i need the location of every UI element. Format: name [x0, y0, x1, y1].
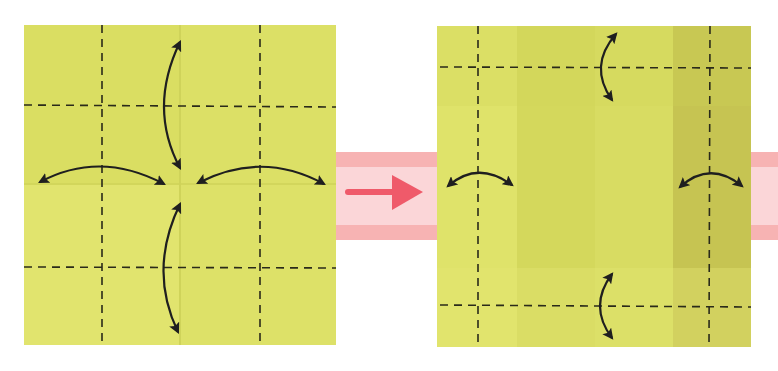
right-arrow-icon	[348, 175, 423, 210]
step-2-sheet	[437, 26, 751, 347]
step-1-sheet	[24, 25, 336, 345]
origami-diagram	[0, 0, 778, 371]
